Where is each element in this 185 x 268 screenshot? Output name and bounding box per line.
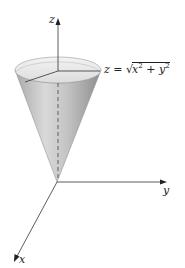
y-axis-label: y <box>163 185 169 196</box>
surface-equation: z = √x2 + y2 <box>104 62 170 75</box>
eq-plus: + <box>146 63 155 76</box>
cone-diagram <box>0 0 185 268</box>
z-axis-label: z <box>49 14 55 25</box>
x-axis-label: x <box>19 254 25 265</box>
z-axis-arrow-icon <box>56 18 61 25</box>
x-axis <box>16 182 57 258</box>
eq-radicand: x2 + y2 <box>132 62 170 75</box>
eq-exp2: 2 <box>165 62 169 70</box>
eq-equals: = <box>113 63 122 76</box>
eq-lhs: z <box>104 63 110 76</box>
eq-exp1: 2 <box>138 62 142 70</box>
